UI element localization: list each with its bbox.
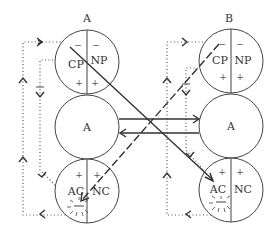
svg-text:+: +: [75, 170, 83, 180]
adult-transactions: [119, 115, 199, 137]
np-label: NP: [90, 54, 108, 67]
cp-label: CP: [68, 58, 84, 71]
ac-label: AC: [209, 183, 226, 196]
adult-label: A: [226, 120, 236, 133]
svg-text:+: +: [236, 72, 244, 82]
svg-text:−: −: [236, 39, 244, 49]
np-label: NP: [234, 54, 252, 67]
column-title-a: A: [82, 12, 92, 25]
svg-text:+: +: [93, 170, 101, 180]
column-title-b: B: [225, 12, 233, 25]
svg-text:+: +: [91, 78, 99, 88]
svg-text:+: +: [218, 167, 226, 177]
svg-text:−: −: [74, 40, 82, 50]
svg-text:−: −: [218, 39, 226, 49]
svg-text:−: −: [92, 40, 100, 50]
chevron-left-icon: [40, 210, 45, 218]
column-b: − − CP NP + + A + + AC NC: [199, 29, 263, 222]
svg-text:+: +: [236, 167, 244, 177]
cp-label: CP: [212, 54, 228, 67]
chevron-left-icon: [186, 211, 191, 218]
svg-text:+: +: [219, 72, 227, 82]
chevron-up-icon: [163, 173, 171, 178]
svg-text:+: +: [75, 78, 83, 88]
nc-label: NC: [92, 185, 110, 198]
adult-label: A: [82, 121, 92, 134]
transactional-analysis-diagram: A B − − CP NP + + A: [0, 0, 277, 234]
nc-label: NC: [234, 183, 252, 196]
chevron-down-icon: [182, 90, 190, 95]
